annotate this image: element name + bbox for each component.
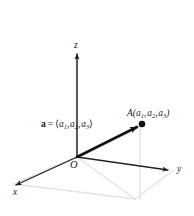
point-close-paren: )	[166, 108, 169, 118]
projection-line-foot-to-y-base	[135, 170, 174, 199]
x-axis-label: x	[13, 188, 17, 198]
vector-component-2: a2	[70, 119, 78, 129]
y-axis	[77, 157, 168, 170]
origin-label: O	[70, 160, 78, 171]
vector-arrow-shaft	[77, 127, 137, 157]
vector-diagram-figure: z y x O A(a1, a2, a3) a = ⟨a1, a2, a3⟩	[0, 0, 194, 216]
point-a-label: A(a1, a2, a3)	[127, 109, 169, 119]
point-coord-2: a2	[147, 108, 155, 118]
vector-close-bracket: ⟩	[89, 119, 93, 129]
vector-component-1: a1	[59, 119, 67, 129]
projection-lines	[14, 125, 174, 199]
point-a-dot	[139, 121, 146, 128]
vector-equals: =	[48, 119, 53, 129]
vector-label: a = ⟨a1, a2, a3⟩	[41, 120, 93, 130]
point-coord-1: a1	[136, 108, 144, 118]
vector-comma-1: ,	[67, 119, 69, 129]
z-axis-label: z	[74, 41, 78, 51]
vector-symbol: a	[41, 119, 46, 129]
y-axis-label: y	[177, 165, 181, 175]
point-comma-1: ,	[144, 108, 146, 118]
x-axis	[16, 157, 77, 185]
